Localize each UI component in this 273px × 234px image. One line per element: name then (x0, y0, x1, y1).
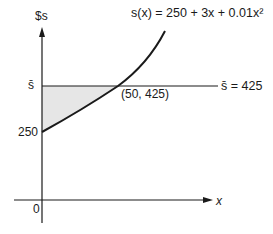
y-tick-250: 250 (18, 126, 38, 138)
y-tick-sbar: s̄ (28, 79, 34, 91)
intersection-label: (50, 425) (121, 88, 169, 100)
x-axis-arrow-icon (203, 197, 213, 203)
sbar-line-label: s̄ = 425 (221, 80, 262, 92)
chart-canvas (0, 0, 273, 234)
origin-label: 0 (33, 203, 40, 215)
curve-equation-label: s(x) = 250 + 3x + 0.01x² (131, 7, 263, 19)
y-axis-label: $s (35, 10, 48, 22)
x-axis-label: x (216, 195, 222, 207)
y-axis-arrow-icon (39, 27, 45, 37)
